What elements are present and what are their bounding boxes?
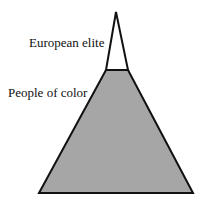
european-elite-label: European elite bbox=[29, 35, 104, 51]
pyramid-diagram bbox=[0, 0, 206, 207]
people-of-color-label: People of color bbox=[8, 85, 87, 101]
european-elite-layer bbox=[106, 12, 128, 70]
